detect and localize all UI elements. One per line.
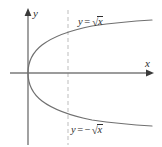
equation-lower-radicand: x: [97, 124, 103, 136]
curve-lower-branch: [28, 73, 152, 126]
equation-lower-radical: √x: [91, 124, 102, 136]
equation-upper-radical: √x: [92, 16, 103, 28]
curve-upper-branch: [28, 20, 152, 73]
math-figure-sqrt-parabola: y x y=√x y=−√x: [0, 0, 162, 147]
equation-lower-operator: =: [76, 124, 85, 135]
x-axis-arrowhead-icon: [146, 70, 154, 77]
y-axis-label: y: [33, 8, 38, 19]
y-axis-arrowhead-icon: [25, 8, 32, 16]
equation-upper-radicand: x: [97, 16, 103, 28]
equation-label-upper-branch: y=√x: [78, 16, 103, 28]
x-axis-label: x: [145, 58, 150, 69]
equation-upper-operator: =: [83, 16, 92, 27]
equation-label-lower-branch: y=−√x: [71, 124, 103, 136]
